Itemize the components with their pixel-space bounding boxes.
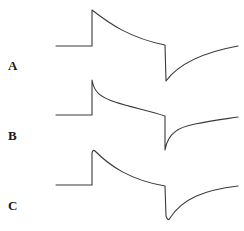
trace-a bbox=[56, 10, 238, 81]
waveform-diagram bbox=[0, 0, 244, 231]
trace-b bbox=[56, 80, 238, 150]
trace-c bbox=[56, 150, 238, 219]
